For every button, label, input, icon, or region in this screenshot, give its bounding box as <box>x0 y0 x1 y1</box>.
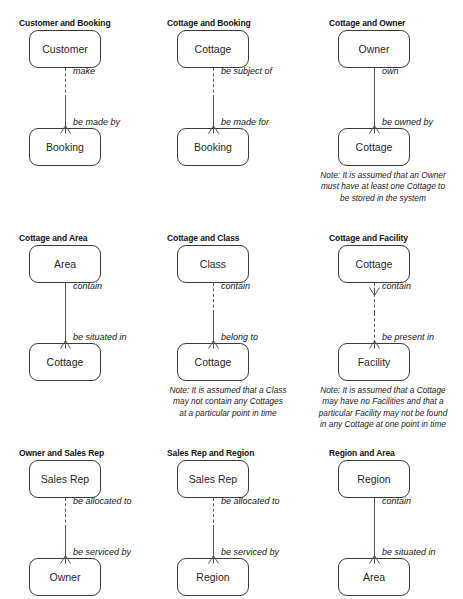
relationship-connector[interactable]: be allocated tobe serviced by <box>65 498 66 558</box>
diagram-cell: Sales Rep and RegionSales RepRegionbe al… <box>153 430 303 599</box>
note-line: Note: It is assumed that a Cottage <box>305 385 461 396</box>
relationship-label-bottom: be situated in <box>382 547 436 557</box>
relationship-connector[interactable]: ownbe owned by <box>374 68 375 128</box>
relationship-label-top: contain <box>382 496 411 506</box>
er-diagram-owner-and-sales-rep: Owner and Sales RepSales RepOwnerbe allo… <box>0 430 153 599</box>
relationship-connector[interactable]: containbe present in <box>374 283 375 343</box>
diagram-title: Cottage and Owner <box>329 18 405 28</box>
connector-segment-upper <box>213 283 214 313</box>
note-line: Note: It is assumed that an Owner <box>305 170 461 181</box>
entity-box-top[interactable]: Region <box>338 460 410 498</box>
diagram-cell: Region and AreaRegionAreacontainbe situa… <box>303 430 463 599</box>
note-line: in any Cottage at one point in time <box>305 419 461 430</box>
note-line: Note: It is assumed that a Class <box>155 385 301 396</box>
relationship-label-bottom: be situated in <box>73 332 127 342</box>
note-line: must have at least one Cottage to <box>305 181 461 192</box>
crowsfoot-icon-top <box>369 282 380 291</box>
relationship-connector[interactable]: be subject ofbe made for <box>213 68 214 128</box>
diagram-title: Cottage and Class <box>167 233 239 243</box>
note-line: may not contain any Cottages <box>155 396 301 407</box>
note-line: be stored in the system <box>305 193 461 204</box>
relationship-connector[interactable]: containbelong to <box>213 283 214 343</box>
connector-segment-upper <box>65 283 66 313</box>
crowsfoot-icon-bottom <box>369 120 380 129</box>
er-diagram-region-and-area: Region and AreaRegionAreacontainbe situa… <box>303 430 463 599</box>
entity-box-top[interactable]: Cottage <box>177 30 249 68</box>
crowsfoot-icon-bottom <box>369 335 380 344</box>
note-line: may have no Facilities and that a <box>305 396 461 407</box>
relationship-label-bottom: be owned by <box>382 117 433 127</box>
crowsfoot-icon-bottom <box>60 120 71 129</box>
relationship-connector[interactable]: containbe situated in <box>65 283 66 343</box>
relationship-label-bottom: be made for <box>221 117 269 127</box>
relationship-label-top: be allocated to <box>221 496 280 506</box>
entity-box-top[interactable]: Sales Rep <box>29 460 101 498</box>
relationship-label-bottom: be made by <box>73 117 120 127</box>
diagram-note: Note: It is assumed that an Ownermust ha… <box>305 170 461 204</box>
diagram-title: Cottage and Area <box>19 233 87 243</box>
entity-box-top[interactable]: Customer <box>29 30 101 68</box>
connector-segment-upper <box>213 498 214 528</box>
relationship-connector[interactable]: makebe made by <box>65 68 66 128</box>
er-diagram-customer-and-booking: Customer and BookingCustomerBookingmakeb… <box>0 0 153 215</box>
note-line: particular Facility may not be found <box>305 408 461 419</box>
entity-box-top[interactable]: Owner <box>338 30 410 68</box>
relationship-label-top: contain <box>221 281 250 291</box>
connector-segment-upper <box>65 498 66 528</box>
er-diagram-cottage-and-area: Cottage and AreaAreaCottagecontainbe sit… <box>0 215 153 430</box>
diagram-cell: Cottage and OwnerOwnerCottageownbe owned… <box>303 0 463 215</box>
diagram-cell: Cottage and ClassClassCottagecontainbelo… <box>153 215 303 430</box>
diagram-title: Owner and Sales Rep <box>19 448 104 458</box>
relationship-label-top: be allocated to <box>73 496 132 506</box>
crowsfoot-icon-bottom <box>60 335 71 344</box>
entity-box-top[interactable]: Class <box>177 245 249 283</box>
diagram-note: Note: It is assumed that a Cottagemay ha… <box>305 385 461 431</box>
connector-segment-upper <box>374 498 375 528</box>
er-diagram-cottage-and-owner: Cottage and OwnerOwnerCottageownbe owned… <box>303 0 463 215</box>
crowsfoot-icon-bottom <box>369 550 380 559</box>
relationship-connector[interactable]: be allocated tobe serviced by <box>213 498 214 558</box>
relationship-label-top: be subject of <box>221 66 272 76</box>
entity-box-top[interactable]: Area <box>29 245 101 283</box>
diagram-title: Sales Rep and Region <box>167 448 254 458</box>
diagram-cell: Cottage and AreaAreaCottagecontainbe sit… <box>0 215 153 430</box>
diagram-cell: Cottage and FacilityCottageFacilityconta… <box>303 215 463 430</box>
connector-segment-upper <box>374 68 375 98</box>
er-diagram-cottage-and-facility: Cottage and FacilityCottageFacilityconta… <box>303 215 463 430</box>
entity-box-top[interactable]: Sales Rep <box>177 460 249 498</box>
diagram-cell: Customer and BookingCustomerBookingmakeb… <box>0 0 153 215</box>
relationship-connector[interactable]: containbe situated in <box>374 498 375 558</box>
diagram-title: Region and Area <box>329 448 395 458</box>
relationship-label-top: contain <box>382 281 411 291</box>
diagram-cell: Cottage and BookingCottageBookingbe subj… <box>153 0 303 215</box>
diagram-cell: Owner and Sales RepSales RepOwnerbe allo… <box>0 430 153 599</box>
diagram-title: Cottage and Facility <box>329 233 408 243</box>
diagram-title: Cottage and Booking <box>167 18 251 28</box>
connector-segment-upper <box>213 68 214 98</box>
relationship-label-bottom: be serviced by <box>221 547 279 557</box>
diagram-title: Customer and Booking <box>19 18 111 28</box>
crowsfoot-icon-bottom <box>208 120 219 129</box>
diagram-note: Note: It is assumed that a Classmay not … <box>155 385 301 419</box>
crowsfoot-icon-bottom <box>60 550 71 559</box>
relationship-label-bottom: be serviced by <box>73 547 131 557</box>
relationship-label-bottom: be present in <box>382 332 434 342</box>
er-diagram-grid: Customer and BookingCustomerBookingmakeb… <box>0 0 463 599</box>
connector-segment-upper <box>65 68 66 98</box>
relationship-label-top: make <box>73 66 95 76</box>
er-diagram-cottage-and-booking: Cottage and BookingCottageBookingbe subj… <box>153 0 303 215</box>
er-diagram-sales-rep-and-region: Sales Rep and RegionSales RepRegionbe al… <box>153 430 303 599</box>
er-diagram-cottage-and-class: Cottage and ClassClassCottagecontainbelo… <box>153 215 303 430</box>
note-line: at a particular point in time <box>155 408 301 419</box>
crowsfoot-icon-bottom <box>208 550 219 559</box>
entity-box-top[interactable]: Cottage <box>338 245 410 283</box>
crowsfoot-icon-bottom <box>208 335 219 344</box>
relationship-label-top: own <box>382 66 399 76</box>
relationship-label-bottom: belong to <box>221 332 258 342</box>
relationship-label-top: contain <box>73 281 102 291</box>
